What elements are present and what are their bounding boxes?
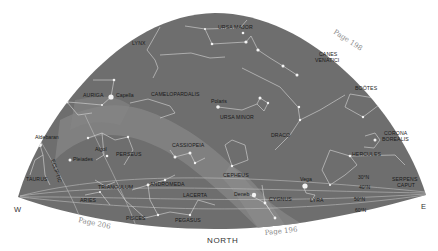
label-deneb: Deneb	[234, 191, 249, 197]
label-polaris: Polaris	[211, 98, 227, 104]
label-bootes: BOÖTES	[355, 85, 378, 91]
label-cygnus: CYGNUS	[269, 196, 292, 202]
label-andromeda: ANDROMEDA	[150, 181, 185, 187]
label-lat-40: 40°N	[359, 184, 371, 190]
label-algol: Algol	[95, 146, 107, 152]
label-ursa-minor: URSA MINOR	[220, 114, 254, 120]
page-ref-196[interactable]: Page 196	[264, 226, 298, 237]
direction-east: E	[421, 202, 426, 211]
label-pleiades: Pleiades	[73, 156, 93, 162]
label-lat-30: 30°N	[358, 174, 370, 180]
label-hercules: HERCULES	[352, 151, 381, 157]
label-auriga: AURIGA	[83, 92, 104, 98]
label-lyra: LYRA	[310, 197, 324, 203]
label-canes-venatici-2: VENATICI	[315, 57, 339, 63]
label-aldebaran: Aldebaran	[35, 134, 59, 140]
label-cepheus: CEPHEUS	[223, 172, 249, 178]
label-corona-borealis-2: BOREALIS	[382, 136, 409, 142]
label-pegasus: PEGASUS	[175, 217, 201, 223]
label-capella: Capella	[116, 92, 134, 98]
label-vega: Vega	[300, 176, 312, 182]
label-draco: DRACO	[271, 132, 290, 138]
label-ursa-major: URSA MAJOR	[218, 24, 253, 30]
label-triangulum: TRIANGULUM	[98, 184, 133, 190]
label-perseus: PERSEUS	[116, 151, 142, 157]
label-lat-50: 50°N	[354, 196, 366, 202]
star-chart: URSA MAJOR LYNX CANES VENATICI AURIGA CA…	[0, 0, 438, 251]
label-serpens-caput-2: CAPUT	[397, 182, 416, 188]
label-camelopardalis: CAMELOPARDALIS	[151, 91, 200, 97]
label-pisces: PISCES	[126, 215, 146, 221]
label-cassiopeia: CASSIOPEIA	[172, 142, 205, 148]
label-lacerta: LACERTA	[183, 192, 208, 198]
label-lynx: LYNX	[132, 40, 146, 46]
label-lat-60: 60°N	[355, 207, 367, 213]
page-ref-198[interactable]: Page 198	[332, 28, 364, 53]
label-aries: ARIES	[80, 197, 97, 203]
direction-north: NORTH	[207, 236, 238, 245]
direction-west: W	[14, 205, 22, 214]
label-taurus: TAURUS	[26, 176, 48, 182]
